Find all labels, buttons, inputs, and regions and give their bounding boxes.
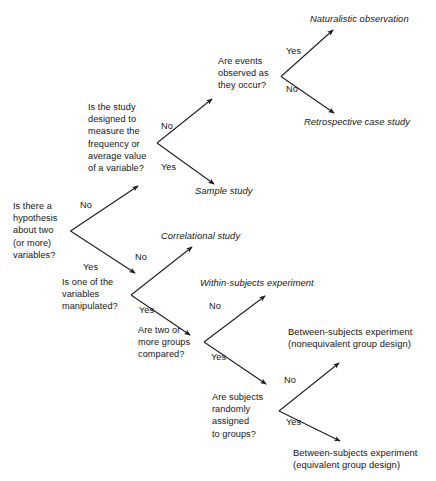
- question-is-there-a-hypothesis: Is there a hypothesis about two (or more…: [13, 200, 83, 261]
- outcome-between-subjects-nonequivalent: Between-subjects experiment (nonequivale…: [288, 326, 412, 351]
- edge-random-no: [279, 363, 339, 411]
- outcome-retrospective-case-study: Retrospective case study: [304, 116, 410, 128]
- outcome-correlational-study: Correlational study: [161, 230, 240, 242]
- branch-label-manipulated-no: No: [135, 252, 147, 263]
- outcome-sample-study: Sample study: [195, 185, 252, 197]
- question-is-one-variable-manipulated: Is one of the variables manipulated?: [62, 276, 134, 313]
- branch-label-hypothesis-no: No: [80, 200, 92, 211]
- branch-label-groups-yes: Yes: [211, 352, 226, 363]
- branch-label-groups-no: No: [209, 301, 221, 312]
- edge-groups-yes: [204, 342, 266, 384]
- question-are-subjects-randomly-assigned: Are subjects randomly assigned to groups…: [212, 391, 278, 440]
- outcome-within-subjects-experiment: Within-subjects experiment: [200, 277, 314, 289]
- branch-label-study-designed-yes: Yes: [161, 162, 176, 173]
- decision-tree-diagram: Is there a hypothesis about two (or more…: [0, 0, 436, 481]
- branch-label-study-designed-no: No: [161, 121, 173, 132]
- question-are-events-observed: Are events observed as they occur?: [218, 55, 284, 92]
- branch-label-manipulated-yes: Yes: [139, 305, 154, 316]
- branch-label-random-no: No: [284, 375, 296, 386]
- outcome-between-subjects-equivalent: Between-subjects experiment (equivalent …: [293, 447, 417, 472]
- branch-label-events-no: No: [286, 84, 298, 95]
- question-is-the-study-designed: Is the study designed to measure the fre…: [88, 101, 162, 174]
- branch-label-hypothesis-yes: Yes: [83, 262, 98, 273]
- branch-label-random-yes: Yes: [286, 417, 301, 428]
- outcome-naturalistic-observation: Naturalistic observation: [310, 13, 409, 25]
- question-are-two-or-more-groups-compared: Are two or more groups compared?: [138, 324, 204, 361]
- branch-label-events-yes: Yes: [286, 46, 301, 57]
